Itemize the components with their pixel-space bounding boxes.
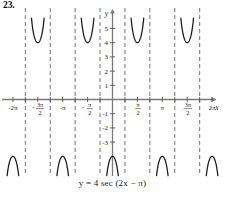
x-tick-label-fraction: π2 <box>135 101 141 116</box>
x-tick-label-numerator: π <box>136 101 140 108</box>
secant-branch <box>31 18 44 43</box>
x-tick-label-fraction: -3π2 <box>32 101 44 116</box>
x-tick-label-fraction: -π2 <box>82 101 93 116</box>
secant-branch <box>131 18 144 43</box>
figure-root: 23. -2π-3π2-π-π2π2π3π22π 54321-1-2-3 yx … <box>0 0 225 198</box>
x-axis-name-label: x <box>214 103 219 112</box>
y-tick-label: -3 <box>102 139 108 147</box>
y-tick-label: 1 <box>105 82 109 90</box>
equation-caption: y = 4 sec (2x − π) <box>0 178 225 188</box>
plot-area: -2π-3π2-π-π2π2π3π22π 54321-1-2-3 yx <box>0 0 225 198</box>
x-tick-label-numerator: π <box>88 101 92 108</box>
y-tick-label: -1 <box>102 110 108 118</box>
x-tick-label-denominator: 2 <box>88 109 91 116</box>
secant-branch <box>157 156 169 175</box>
x-tick-label-numerator: 3π <box>37 101 44 108</box>
secant-graph-svg: -2π-3π2-π-π2π2π3π22π 54321-1-2-3 yx <box>0 0 225 198</box>
x-tick-label-denominator: 2 <box>136 109 139 116</box>
x-tick-label-fraction: 3π2 <box>184 101 192 116</box>
secant-branch <box>7 156 19 175</box>
secant-branch <box>181 18 194 43</box>
secant-branch <box>206 156 218 175</box>
secant-branch <box>81 18 94 43</box>
x-tick-label-sign: - <box>32 103 35 111</box>
y-tick-label: 4 <box>105 39 109 47</box>
y-axis-name-label: y <box>104 9 109 18</box>
x-tick-label-numerator: 3π <box>185 101 192 108</box>
y-tick-label: -2 <box>102 124 108 132</box>
x-tick-label-sign: - <box>82 103 85 111</box>
y-tick-label: 5 <box>105 25 109 33</box>
x-tick-label-denominator: 2 <box>39 109 42 116</box>
y-tick-label: 2 <box>105 68 109 76</box>
y-axis-tick-labels: 54321-1-2-3 <box>102 25 108 147</box>
x-tick-label: -π <box>60 104 66 112</box>
x-tick-label-denominator: 2 <box>186 109 189 116</box>
y-tick-label: 3 <box>105 53 109 61</box>
axis-name-labels: yx <box>104 9 220 112</box>
x-tick-label: -2π <box>8 104 18 112</box>
secant-branch <box>57 156 69 175</box>
y-axis-arrowhead <box>110 9 115 14</box>
x-tick-label: π <box>161 104 165 112</box>
